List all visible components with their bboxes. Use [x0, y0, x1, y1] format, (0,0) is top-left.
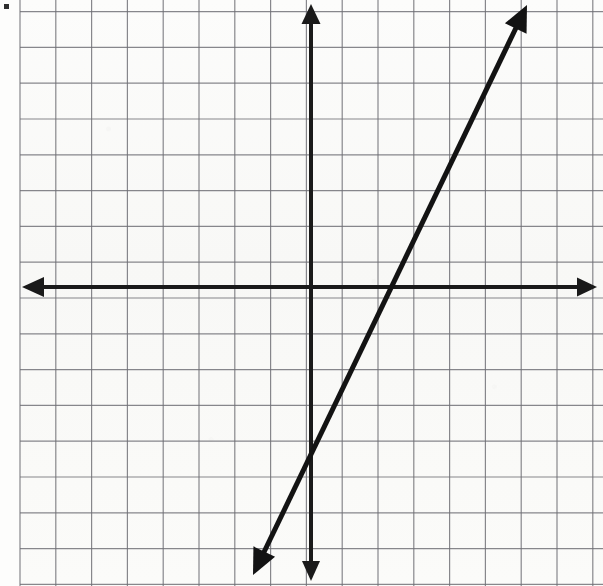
plotted-line-layer: [0, 0, 603, 586]
scan-speck: [4, 4, 9, 9]
graph-paper-worksheet: [0, 0, 603, 586]
plotted-line: [253, 5, 527, 575]
plotted-line-shaft: [261, 23, 519, 559]
